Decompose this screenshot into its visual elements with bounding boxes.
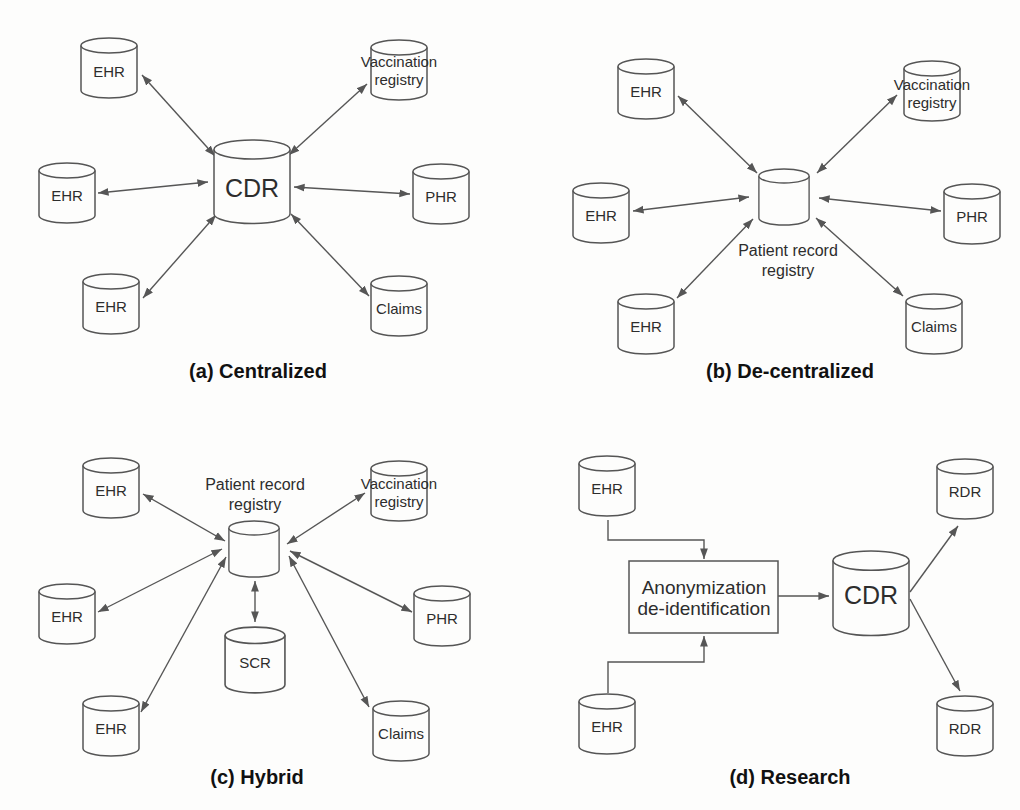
node-d-ehr-bottom-label: EHR xyxy=(591,718,623,735)
panel-b-decentralized: EHR Vaccinationregistry Patient recordre… xyxy=(573,59,1000,382)
node-d-ehr-top-label: EHR xyxy=(591,480,623,497)
edge-b-vaccination-registry-registry xyxy=(817,95,897,173)
node-a-vaccination-registry-cylinder xyxy=(371,40,427,100)
panel-d-research: EHR RDR Anonymizationde-identification C… xyxy=(579,456,993,788)
edge-c-ehr-top-left-registry xyxy=(143,494,225,541)
node-a-claims-label: Claims xyxy=(376,300,422,317)
edge-c-phr-registry xyxy=(290,551,412,612)
edge-d-cdr-rdr-bottom xyxy=(910,599,960,691)
diagram-svg: EHR Vaccinationregistry CDR EHR PHR EHR … xyxy=(0,0,1020,810)
node-b-ehr-bottom-left-label: EHR xyxy=(630,318,662,335)
edge-c-claims-registry xyxy=(289,556,369,707)
edge-d-ehr-top-anonymization xyxy=(608,520,704,559)
edge-a-claims-cdr xyxy=(291,214,369,296)
node-c-scr-label: SCR xyxy=(239,654,271,671)
edge-c-ehr-mid-left-registry xyxy=(98,549,222,612)
node-c-patient-record-registry-cylinder xyxy=(229,521,279,577)
node-a-phr-label: PHR xyxy=(425,188,457,205)
node-d-anonymization-box-label: Anonymizationde-identification xyxy=(637,577,770,619)
panel-b-caption: (b) De-centralized xyxy=(706,360,874,382)
edge-b-ehr-mid-left-registry xyxy=(633,197,749,211)
node-c-ehr-mid-left-label: EHR xyxy=(51,608,83,625)
node-b-patient-record-registry-label: Patient recordregistry xyxy=(738,242,838,279)
node-c-ehr-bottom-left-label: EHR xyxy=(95,720,127,737)
node-b-claims-label: Claims xyxy=(911,318,957,335)
edge-a-ehr-bottom-left-cdr xyxy=(143,215,216,298)
node-a-ehr-mid-left-label: EHR xyxy=(51,187,83,204)
panel-c-hybrid: EHR Patient recordregistry Vaccinationre… xyxy=(39,458,470,788)
edge-d-ehr-bottom-anonymization xyxy=(608,636,704,693)
edge-a-phr-cdr xyxy=(294,187,410,194)
edge-d-cdr-rdr-top xyxy=(910,526,958,592)
node-d-rdr-bottom-label: RDR xyxy=(949,720,982,737)
edge-a-ehr-mid-left-cdr xyxy=(98,182,208,193)
edge-b-ehr-top-left-registry xyxy=(678,96,757,173)
node-b-ehr-mid-left-label: EHR xyxy=(585,207,617,224)
edge-b-phr-registry xyxy=(819,198,941,211)
panel-d-caption: (d) Research xyxy=(729,766,850,788)
node-b-patient-record-registry-cylinder xyxy=(759,169,809,225)
panel-c-caption: (c) Hybrid xyxy=(210,766,303,788)
panel-a-centralized: EHR Vaccinationregistry CDR EHR PHR EHR … xyxy=(39,38,469,382)
node-a-ehr-bottom-left-label: EHR xyxy=(95,298,127,315)
node-c-claims-label: Claims xyxy=(378,725,424,742)
node-c-patient-record-registry-label: Patient recordregistry xyxy=(205,476,305,513)
node-c-ehr-top-left-label: EHR xyxy=(95,482,127,499)
node-a-cdr-label: CDR xyxy=(225,174,279,202)
node-a-ehr-top-left-label: EHR xyxy=(93,63,125,80)
node-d-rdr-top-label: RDR xyxy=(949,483,982,500)
node-d-cdr-label: CDR xyxy=(844,581,898,609)
edge-c-vaccination-registry-registry xyxy=(287,493,365,544)
edge-c-ehr-bottom-left-registry xyxy=(141,557,226,712)
edge-a-ehr-top-left-cdr xyxy=(142,75,215,156)
node-c-phr-label: PHR xyxy=(426,610,458,627)
panel-a-caption: (a) Centralized xyxy=(189,360,327,382)
node-b-phr-label: PHR xyxy=(956,208,988,225)
architecture-figure: EHR Vaccinationregistry CDR EHR PHR EHR … xyxy=(0,0,1020,810)
edge-a-vaccination-registry-cdr xyxy=(289,84,367,155)
node-b-ehr-top-left-label: EHR xyxy=(630,83,662,100)
